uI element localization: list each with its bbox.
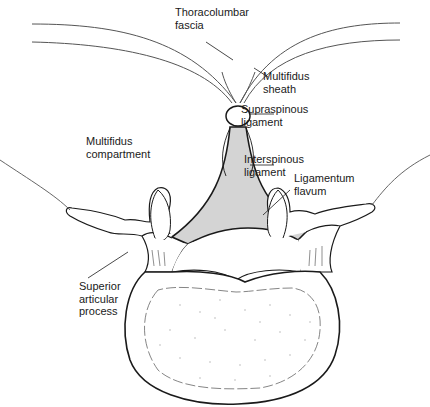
label-line: Supraspinous bbox=[241, 103, 308, 116]
label-line: fascia bbox=[175, 19, 249, 32]
label-superior-articular-process: Superior articular process bbox=[79, 280, 121, 318]
label-line: Thoracolumbar bbox=[175, 6, 249, 19]
label-thoracolumbar-fascia: Thoracolumbar fascia bbox=[175, 6, 249, 31]
label-line: flavum bbox=[294, 185, 355, 198]
multifidus-sheath bbox=[32, 40, 400, 103]
label-line: Multifidus bbox=[86, 135, 150, 148]
thoracolumbar-fascia bbox=[32, 23, 400, 103]
label-line: Ligamentum bbox=[294, 172, 355, 185]
label-multifidus-sheath: Multifidus sheath bbox=[263, 70, 309, 95]
label-line: ligament bbox=[241, 116, 308, 129]
label-line: sheath bbox=[263, 83, 309, 96]
label-line: Interspinous bbox=[244, 153, 304, 166]
diagram-drawing bbox=[0, 0, 430, 407]
label-line: articular bbox=[79, 293, 121, 306]
label-multifidus-compartment: Multifidus compartment bbox=[86, 135, 150, 160]
label-line: Multifidus bbox=[263, 70, 309, 83]
label-supraspinous-ligament: Supraspinous ligament bbox=[241, 103, 308, 128]
label-ligamentum-flavum: Ligamentum flavum bbox=[294, 172, 355, 197]
label-line: process bbox=[79, 305, 121, 318]
label-line: compartment bbox=[86, 148, 150, 161]
label-line: Superior bbox=[79, 280, 121, 293]
vertebra-diagram: Thoracolumbar fascia Multifidus sheath S… bbox=[0, 0, 430, 407]
